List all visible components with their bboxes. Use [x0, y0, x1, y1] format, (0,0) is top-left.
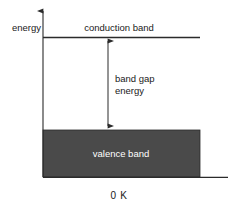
band-gap-diagram: energy conduction band band gap energy v…: [0, 0, 233, 208]
band-gap-label-line1: band gap: [115, 73, 155, 84]
band-diagram-canvas: energy conduction band band gap energy v…: [0, 0, 233, 208]
band-gap-label-line2: energy: [115, 85, 144, 96]
y-axis-label: energy: [12, 22, 41, 33]
valence-band-label: valence band: [93, 148, 150, 159]
conduction-band-label: conduction band: [84, 22, 154, 33]
x-axis-label: 0 K: [111, 190, 128, 201]
